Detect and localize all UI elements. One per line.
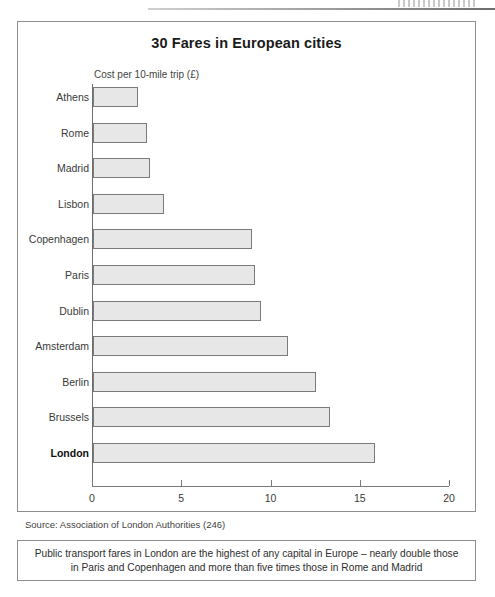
- axis-caption-label: Cost per 10-mile trip (£): [94, 69, 199, 80]
- bar-category-label: Athens: [56, 91, 89, 103]
- bar-row: Berlin: [93, 372, 450, 392]
- bar-row: Paris: [93, 265, 450, 285]
- bar-category-label: London: [51, 447, 89, 459]
- x-tick-label: 20: [443, 492, 455, 504]
- x-tick-mark: [449, 480, 450, 486]
- bar-row: Dublin: [93, 301, 450, 321]
- bar-row: Lisbon: [93, 194, 450, 214]
- chart-title: 30 Fares in European cities: [18, 35, 475, 51]
- x-tick-mark: [360, 480, 361, 486]
- bar-category-label: Brussels: [49, 411, 89, 423]
- bar-row: Madrid: [93, 158, 450, 178]
- x-tick-mark: [92, 480, 93, 486]
- x-tick-label: 0: [89, 492, 95, 504]
- source-note: Source: Association of London Authoritie…: [17, 519, 476, 530]
- x-tick-mark: [271, 480, 272, 486]
- bar: [93, 265, 255, 285]
- page-header-rule: [148, 8, 495, 10]
- bar-category-label: Rome: [61, 127, 89, 139]
- bar-category-label: Dublin: [59, 305, 89, 317]
- bar-category-label: Lisbon: [58, 198, 89, 210]
- bar: [93, 336, 288, 356]
- x-tick-label: 5: [178, 492, 184, 504]
- bar: [93, 158, 150, 178]
- x-tick-mark: [181, 480, 182, 486]
- caption-text: Public transport fares in London are the…: [35, 547, 459, 574]
- bar-row: Amsterdam: [93, 336, 450, 356]
- bar-category-label: Madrid: [57, 162, 89, 174]
- x-tick-label: 15: [354, 492, 366, 504]
- bar-row: Athens: [93, 87, 450, 107]
- bar: [93, 194, 164, 214]
- caption-line-2: in Paris and Copenhagen and more than fi…: [35, 561, 459, 575]
- bar-category-label: Paris: [65, 269, 89, 281]
- bar: [93, 301, 261, 321]
- plot-area: 05101520 AthensRomeMadridLisbonCopenhage…: [92, 84, 449, 490]
- figure-container: 30 Fares in European cities Cost per 10-…: [17, 21, 476, 512]
- bar-row: London: [93, 443, 450, 463]
- bar: [93, 123, 147, 143]
- bar-row: Copenhagen: [93, 229, 450, 249]
- page-header-smudge: [398, 0, 478, 7]
- x-tick-label: 10: [265, 492, 277, 504]
- bar-category-label: Amsterdam: [35, 340, 89, 352]
- bar: [93, 87, 138, 107]
- x-axis-line: [92, 486, 449, 487]
- caption-box: Public transport fares in London are the…: [17, 540, 476, 581]
- bar-category-label: Berlin: [62, 376, 89, 388]
- bar-row: Brussels: [93, 407, 450, 427]
- bar-category-label: Copenhagen: [29, 233, 89, 245]
- bar: [93, 229, 252, 249]
- bar: [93, 372, 316, 392]
- bar: [93, 407, 330, 427]
- bar-row: Rome: [93, 123, 450, 143]
- caption-line-1: Public transport fares in London are the…: [35, 548, 459, 559]
- bar: [93, 443, 375, 463]
